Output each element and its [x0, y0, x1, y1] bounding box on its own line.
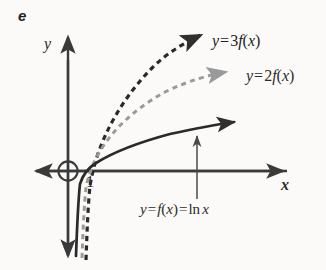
axis-label-x: x: [281, 177, 289, 193]
curve-label-f-ln-operator: ln: [188, 201, 200, 217]
curve-label-f-ln-argument: x: [200, 201, 209, 217]
curve-label-2f-paren-close: ): [289, 67, 294, 84]
curve-label-f-variable: x: [166, 201, 173, 217]
figure-container: e y x 1 y=3f(x) y=2f(x) y=f(x)=lnx: [0, 0, 326, 270]
part-letter: e: [18, 8, 26, 23]
curve-label-2f-variable: x: [282, 67, 289, 84]
curve-label-3f-coefficient: 3: [230, 32, 238, 49]
curve-label-f: y=f(x)=lnx: [140, 202, 209, 217]
curve-label-f-lhs: y: [140, 201, 147, 217]
curve-f: [76, 122, 234, 256]
curve-label-3f: y=3f(x): [212, 33, 260, 49]
curve-label-2f-equals: =: [253, 67, 264, 84]
curve-label-3f-paren-close: ): [255, 32, 260, 49]
curve-label-f-equals-2: =: [178, 201, 188, 217]
curve-label-3f-variable: x: [248, 32, 255, 49]
curve-label-3f-equals: =: [219, 32, 230, 49]
curve-label-2f-coefficient: 2: [264, 67, 272, 84]
axis-label-y: y: [44, 36, 51, 52]
curve-label-2f: y=2f(x): [246, 68, 294, 84]
tick-label-one: 1: [86, 174, 94, 190]
curve-label-f-equals-1: =: [147, 201, 157, 217]
curve-2f: [82, 72, 226, 258]
